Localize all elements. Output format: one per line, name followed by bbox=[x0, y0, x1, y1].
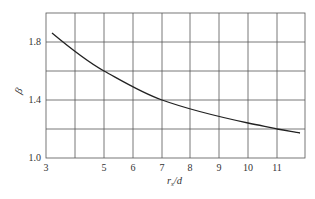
y-tick-1-0: 1.0 bbox=[29, 152, 42, 163]
plot-frame bbox=[46, 13, 305, 158]
grid bbox=[46, 13, 305, 158]
x-tick-7: 7 bbox=[160, 162, 165, 173]
x-tick-9: 9 bbox=[217, 162, 222, 173]
x-tick-10: 10 bbox=[243, 162, 253, 173]
data-curve bbox=[52, 33, 300, 133]
y-tick-1-4: 1.4 bbox=[29, 94, 42, 105]
x-axis-label-rest: /d bbox=[173, 175, 183, 186]
x-tick-8: 8 bbox=[188, 162, 193, 173]
y-tick-1-8: 1.8 bbox=[29, 36, 42, 47]
x-tick-6: 6 bbox=[131, 162, 136, 173]
x-tick-5: 5 bbox=[102, 162, 107, 173]
chart-canvas: 1.8 1.4 1.0 β 3 5 6 7 8 9 10 11 rs/d bbox=[0, 0, 315, 199]
x-axis-label: rs/d bbox=[167, 175, 183, 188]
x-tick-3: 3 bbox=[44, 162, 49, 173]
y-axis-label: β bbox=[12, 86, 25, 96]
x-tick-11: 11 bbox=[272, 162, 282, 173]
